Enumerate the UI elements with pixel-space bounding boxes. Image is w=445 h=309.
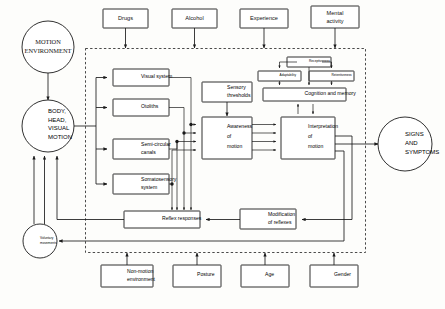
voluntary-movements-label-line1: Voluntary bbox=[40, 236, 54, 240]
semicircular-canals-label-line1: Semi-circular bbox=[141, 141, 171, 147]
cognition-and-memory-label: Cognition and memory bbox=[305, 90, 357, 96]
semicircular-canals-label-line2: canals bbox=[141, 149, 156, 155]
node-visual-system: Visual system bbox=[113, 69, 172, 86]
node-motion-environment: MOTION ENVIRONMENT bbox=[22, 21, 74, 73]
modification-of-reflexes-label-line2: of reflexes bbox=[268, 219, 292, 225]
node-semicircular-canals: Semi-circular canals bbox=[113, 139, 171, 159]
visual-system-label: Visual system bbox=[141, 73, 172, 79]
input-box-drugs: Drugs bbox=[103, 9, 148, 28]
input-box-mental-activity-label-line2: activity bbox=[326, 18, 343, 24]
input-box-mental-activity: Mental activity bbox=[311, 6, 359, 28]
motion-environment-label-line1: MOTION bbox=[35, 38, 61, 45]
body-head-visual-motion-label-line2: HEAD, bbox=[48, 117, 67, 123]
motion-sickness-diagram: Drugs Alcohol Experience Mental activity… bbox=[0, 0, 445, 309]
interpretation-of-motion-label-line2: of bbox=[308, 133, 313, 139]
input-box-drugs-label: Drugs bbox=[118, 15, 133, 21]
adaptability-label: Adaptability bbox=[280, 73, 297, 77]
somatosensory-system-label-line2: system bbox=[141, 184, 157, 190]
input-box-posture: Posture bbox=[173, 265, 221, 287]
body-head-visual-motion-label-line1: BODY, bbox=[48, 108, 66, 114]
receptiveness-label: Receptiveness bbox=[309, 59, 330, 63]
sensory-thresholds-label-line2: thresholds bbox=[227, 92, 251, 98]
node-sensory-thresholds: Sensory thresholds bbox=[202, 82, 252, 102]
input-box-mental-activity-label-line1: Mental bbox=[327, 10, 344, 16]
input-box-experience: Experience bbox=[240, 9, 288, 28]
awareness-of-motion-label-line2: of bbox=[227, 133, 232, 139]
node-somatosensory-system: Somatosensory system bbox=[113, 174, 177, 194]
path-interpretation-to-voluntary bbox=[59, 151, 344, 241]
input-box-alcohol-label: Alcohol bbox=[185, 15, 203, 21]
awareness-of-motion-label-line1: Awareness bbox=[227, 123, 253, 129]
node-body-head-visual-motion: BODY, HEAD, VISUAL MOTION bbox=[22, 100, 74, 152]
input-box-non-motion-environment-label-line2: environment bbox=[127, 276, 156, 282]
somatosensory-system-label-line1: Somatosensory bbox=[141, 176, 177, 182]
node-modification-of-reflexes: Modification of reflexes bbox=[240, 209, 296, 229]
path-canals-to-awareness bbox=[169, 142, 196, 150]
node-awareness-of-motion: Awareness of motion bbox=[202, 117, 253, 159]
retentiveness-label: Retentiveness bbox=[332, 73, 353, 77]
node-voluntary-movements: Voluntary movements bbox=[23, 224, 57, 258]
node-reflex-responses: Reflex responses bbox=[124, 211, 202, 228]
signs-and-symptoms-label-line1: SIGNS bbox=[405, 131, 424, 137]
interpretation-of-motion-label-line1: Interpretation bbox=[308, 123, 338, 129]
input-box-gender-label: Gender bbox=[334, 271, 351, 277]
reflex-responses-label: Reflex responses bbox=[162, 215, 202, 221]
sensory-thresholds-label-line1: Sensory bbox=[227, 84, 246, 90]
input-box-alcohol: Alcohol bbox=[172, 9, 217, 28]
motion-environment-label-line2: ENVIRONMENT bbox=[25, 47, 72, 54]
awareness-of-motion-label-line3: motion bbox=[227, 143, 242, 149]
voluntary-movements-label-line2: movements bbox=[40, 241, 57, 245]
path-otoliths-to-awareness bbox=[169, 108, 196, 134]
input-box-posture-label: Posture bbox=[197, 271, 215, 277]
input-box-age-label: Age bbox=[265, 271, 274, 277]
node-retentiveness: Retentiveness bbox=[309, 71, 354, 81]
input-box-gender: Gender bbox=[310, 265, 358, 287]
node-signs-and-symptoms: SIGNS AND SYMPTOMS bbox=[378, 117, 439, 171]
input-box-non-motion-environment: Non-motion environment bbox=[101, 265, 156, 287]
body-head-visual-motion-label-line3: VISUAL bbox=[48, 125, 70, 131]
node-cognition-and-memory: Cognition and memory bbox=[263, 88, 356, 101]
otoliths-label: Otoliths bbox=[141, 103, 159, 109]
input-box-experience-label: Experience bbox=[250, 15, 278, 21]
node-adaptability: Adaptability bbox=[258, 71, 301, 81]
interpretation-of-motion-label-line3: motion bbox=[308, 143, 323, 149]
signs-and-symptoms-label-line3: SYMPTOMS bbox=[405, 149, 439, 155]
diagram-canvas: Drugs Alcohol Experience Mental activity… bbox=[0, 0, 445, 309]
node-interpretation-of-motion: Interpretation of motion bbox=[281, 117, 338, 159]
input-box-age: Age bbox=[241, 265, 289, 287]
input-box-non-motion-environment-label-line1: Non-motion bbox=[127, 268, 153, 274]
node-otoliths: Otoliths bbox=[113, 99, 169, 116]
body-head-visual-motion-label-line4: MOTION bbox=[48, 134, 72, 140]
modification-of-reflexes-label-line1: Modification bbox=[268, 211, 295, 217]
path-visual-to-awareness bbox=[169, 78, 196, 125]
signs-and-symptoms-label-line2: AND bbox=[405, 140, 418, 146]
